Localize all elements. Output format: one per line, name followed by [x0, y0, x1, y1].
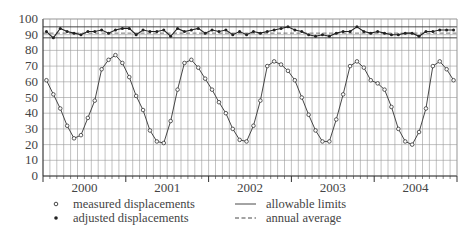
measured-point [334, 118, 338, 122]
legend-measured-marker [54, 202, 58, 206]
measured-point [224, 111, 228, 115]
measured-point [403, 140, 407, 144]
y-tick-label: 30 [25, 121, 38, 136]
adjusted-point [114, 28, 117, 31]
measured-point [424, 107, 428, 111]
measured-point [348, 64, 352, 68]
measured-point [121, 61, 125, 65]
measured-point [341, 93, 345, 97]
measured-point [355, 60, 359, 64]
adjusted-point [107, 32, 110, 35]
grid [43, 19, 457, 176]
adjusted-point [342, 30, 345, 33]
y-tick-label: 40 [25, 105, 38, 120]
measured-point [293, 78, 297, 82]
y-tick-label: 70 [25, 58, 38, 73]
measured-point [134, 94, 138, 98]
x-tick-label: 2001 [154, 180, 180, 195]
y-tick-label: 10 [25, 152, 38, 167]
measured-point [431, 64, 435, 68]
adjusted-point [383, 32, 386, 35]
adjusted-point [424, 30, 427, 33]
x-tick-label: 2000 [71, 180, 97, 195]
adjusted-point [321, 33, 324, 36]
adjusted-point [452, 28, 455, 31]
measured-point [328, 140, 332, 144]
adjusted-point [328, 35, 331, 38]
adjusted-point [66, 30, 69, 33]
measured-point [245, 140, 249, 144]
measured-point [452, 78, 456, 82]
adjusted-point [376, 30, 379, 33]
adjusted-point [169, 35, 172, 38]
adjusted-point [266, 30, 269, 33]
adjusted-point [224, 28, 227, 31]
adjusted-point [280, 27, 283, 30]
adjusted-point [273, 28, 276, 31]
measured-point [417, 130, 421, 134]
adjusted-point [100, 28, 103, 31]
measured-point [300, 96, 304, 100]
adjusted-point [286, 25, 289, 28]
measured-point [79, 133, 83, 137]
measured-point [65, 124, 69, 128]
adjusted-point [390, 33, 393, 36]
adjusted-point [121, 27, 124, 30]
measured-point [58, 107, 62, 111]
adjusted-point [190, 28, 193, 31]
measured-point [390, 105, 394, 109]
measured-point [100, 67, 104, 71]
measured-point [383, 88, 387, 92]
measured-point [72, 137, 76, 141]
measured-point [196, 66, 200, 70]
adjusted-point [438, 28, 441, 31]
adjusted-point [307, 33, 310, 36]
adjusted-point [259, 32, 262, 35]
adjusted-point [314, 35, 317, 38]
y-tick-label: 80 [25, 42, 38, 57]
adjusted-point [300, 30, 303, 33]
measured-point [238, 138, 242, 142]
measured-point [93, 99, 97, 103]
adjusted-point [183, 30, 186, 33]
adjusted-point [431, 30, 434, 33]
adjusted-point [397, 33, 400, 36]
adjusted-point [335, 32, 338, 35]
adjusted-point [142, 28, 145, 31]
y-tick-label: 60 [25, 74, 38, 89]
adjusted-point [418, 35, 421, 38]
measured-point [114, 53, 118, 57]
adjusted-point [176, 27, 179, 30]
y-tick-label: 20 [25, 137, 38, 152]
measured-point [376, 82, 380, 86]
adjusted-point [93, 30, 96, 33]
measured-point [259, 99, 263, 103]
measured-point [410, 143, 414, 147]
x-tick-labels: 20002001200220032004 [71, 180, 429, 195]
measured-point [176, 88, 180, 92]
measured-point [86, 116, 90, 120]
measured-point [169, 119, 173, 123]
adjusted-point [245, 33, 248, 36]
measured-point [369, 78, 373, 82]
measured-point [203, 77, 207, 81]
measured-point [141, 108, 145, 112]
measured-point [162, 141, 166, 145]
measured-point [397, 127, 401, 131]
measured-point [321, 140, 325, 144]
adjusted-point [204, 32, 207, 35]
adjusted-point [369, 32, 372, 35]
y-tick-label: 100 [19, 11, 39, 26]
adjusted-point [148, 30, 151, 33]
adjusted-point [349, 30, 352, 33]
adjusted-point [238, 30, 241, 33]
adjusted-point [411, 32, 414, 35]
adjusted-point [45, 30, 48, 33]
adjusted-point [128, 27, 131, 30]
adjusted-point [59, 27, 62, 30]
legend-adjusted-label: adjusted displacements [73, 211, 189, 225]
measured-point [217, 100, 221, 104]
x-tick-label: 2003 [320, 180, 346, 195]
measured-point [52, 93, 56, 97]
legend-adjusted-marker [54, 216, 58, 220]
